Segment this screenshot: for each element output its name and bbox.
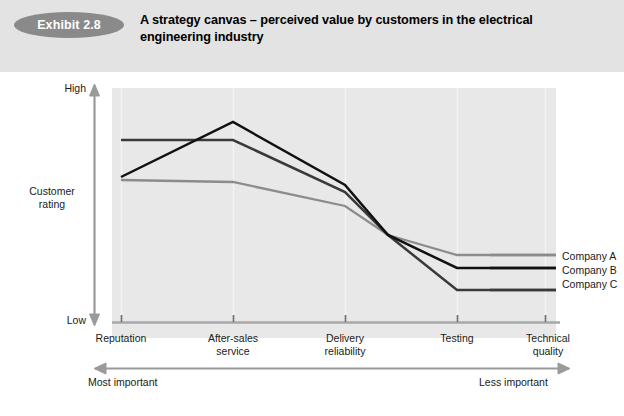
series-line-company-a — [121, 180, 556, 255]
category-text: Reputation — [96, 332, 147, 344]
category-text: service — [216, 345, 249, 357]
x-axis-category-after-sales-service: After-sales service — [185, 332, 281, 358]
category-text: Technical — [526, 332, 570, 344]
y-axis-label-low: Low — [38, 314, 86, 326]
chart-container: High Low Customer rating Reputation Afte… — [0, 72, 624, 416]
y-axis-label-high: High — [38, 82, 86, 94]
exhibit-title: A strategy canvas – perceived value by c… — [140, 12, 580, 46]
annotation-most-important: Most important — [88, 376, 157, 388]
category-text: quality — [533, 345, 563, 357]
y-axis-arrow — [90, 84, 100, 326]
annotation-less-important: Less important — [479, 376, 548, 388]
y-axis-title-line-2: rating — [39, 198, 65, 210]
x-axis-category-testing: Testing — [409, 332, 505, 345]
category-text: After-sales — [208, 332, 258, 344]
gridlines — [122, 88, 546, 322]
category-text: Testing — [440, 332, 473, 344]
legend-label-company-b: Company B — [562, 264, 617, 276]
exhibit-figure: Exhibit 2.8 A strategy canvas – perceive… — [0, 0, 624, 416]
x-axis-category-delivery-reliability: Delivery reliability — [297, 332, 393, 358]
exhibit-number-badge: Exhibit 2.8 — [14, 12, 124, 38]
y-axis-title: Customer rating — [18, 185, 86, 211]
series-line-company-b — [121, 122, 556, 268]
importance-arrow — [94, 363, 570, 374]
category-text: reliability — [325, 345, 366, 357]
x-axis — [112, 315, 560, 323]
category-text: Delivery — [326, 332, 364, 344]
y-axis-title-line-1: Customer — [29, 185, 75, 197]
x-axis-category-reputation: Reputation — [73, 332, 169, 345]
header-band: Exhibit 2.8 A strategy canvas – perceive… — [0, 0, 624, 72]
legend-label-company-c: Company C — [562, 278, 617, 290]
chart-canvas — [0, 72, 624, 416]
legend-label-company-a: Company A — [562, 250, 616, 262]
x-axis-category-technical-quality: Technical quality — [500, 332, 596, 358]
